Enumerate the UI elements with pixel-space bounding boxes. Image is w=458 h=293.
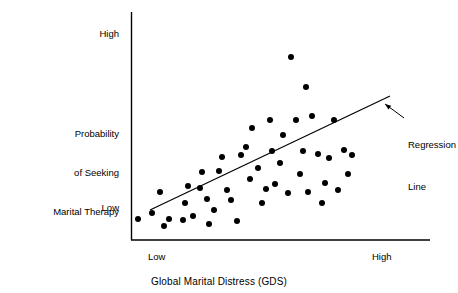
scatter-point [305, 189, 311, 195]
scatter-point [228, 197, 234, 203]
y-axis-title: Probability of Seeking Marital Therapy [53, 101, 119, 244]
scatter-point [224, 187, 230, 193]
scatter-plot-figure: High Low Probability of Seeking Marital … [0, 0, 458, 293]
x-axis-tick-low: Low [148, 250, 165, 263]
scatter-point [255, 165, 261, 171]
y-axis-title-line-3: Marital Therapy [53, 205, 119, 218]
scatter-point [293, 117, 299, 123]
callout-arrow-head [385, 104, 391, 109]
scatter-point [211, 207, 217, 213]
scatter-point [182, 200, 188, 206]
y-axis-tick-high: High [99, 27, 119, 40]
scatter-point [322, 180, 328, 186]
scatter-point [285, 190, 291, 196]
scatter-point [149, 210, 155, 216]
scatter-point [206, 221, 212, 227]
y-axis-title-line-1: Probability [53, 127, 119, 140]
scatter-point [234, 218, 240, 224]
scatter-point [247, 176, 253, 182]
regression-line-annotation: Regression Line [408, 110, 456, 222]
scatter-point [300, 148, 306, 154]
scatter-point [199, 169, 205, 175]
scatter-point [277, 160, 283, 166]
x-axis-title: Global Marital Distress (GDS) [151, 275, 287, 288]
scatter-point [326, 155, 332, 161]
scatter-point [315, 151, 321, 157]
regression-annotation-line-1: Regression [408, 138, 456, 152]
scatter-point [335, 187, 341, 193]
scatter-point [238, 152, 244, 158]
scatter-point [190, 213, 196, 219]
scatter-point [135, 216, 141, 222]
y-axis-title-line-2: of Seeking [53, 166, 119, 179]
scatter-point [309, 113, 315, 119]
scatter-point [272, 181, 278, 187]
scatter-point [161, 223, 167, 229]
scatter-point [204, 196, 210, 202]
scatter-point [259, 200, 265, 206]
x-axis-tick-high: High [372, 250, 392, 263]
scatter-point [180, 217, 186, 223]
scatter-point [345, 171, 351, 177]
scatter-point [185, 183, 191, 189]
callout-arrow-group [385, 104, 404, 118]
scatter-point [288, 54, 294, 60]
scatter-point [157, 189, 163, 195]
scatter-point [349, 152, 355, 158]
axis-lines [131, 12, 430, 240]
regression-annotation-line-2: Line [408, 180, 456, 194]
scatter-point [303, 84, 309, 90]
scatter-point [267, 117, 273, 123]
scatter-point [249, 125, 255, 131]
scatter-points-group [135, 54, 355, 229]
scatter-point [297, 171, 303, 177]
scatter-point [319, 200, 325, 206]
scatter-point [280, 132, 286, 138]
scatter-point [243, 144, 249, 150]
scatter-point [219, 154, 225, 160]
scatter-point [263, 186, 269, 192]
scatter-point [216, 168, 222, 174]
scatter-point [341, 147, 347, 153]
scatter-point [166, 216, 172, 222]
